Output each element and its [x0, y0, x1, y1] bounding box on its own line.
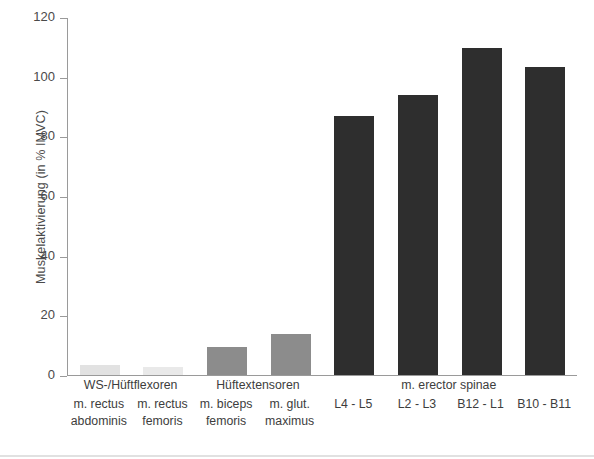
x-axis-label-line1: B10 - B11: [517, 397, 571, 411]
bar: [462, 48, 502, 375]
bar: [207, 347, 247, 375]
y-tick-label: 100: [33, 69, 55, 84]
y-tick-label: 20: [41, 307, 55, 322]
plot-area: 120100806040200: [67, 18, 577, 376]
bar: [398, 95, 438, 375]
y-tick: 60: [60, 197, 67, 198]
x-axis-line: [67, 375, 577, 376]
bar: [334, 116, 374, 375]
bar-chart-figure: Muskelaktivierung (in % IMVC) 1201008060…: [0, 0, 594, 459]
y-tick: 40: [60, 257, 67, 258]
bar: [525, 67, 565, 375]
y-tick-label: 0: [48, 367, 55, 382]
x-axis-label-line1: L2 - L3: [398, 397, 436, 411]
x-axis-group-label: m. erector spinae: [322, 378, 577, 392]
x-axis-label-line1: L4 - L5: [334, 397, 372, 411]
x-axis-label: B10 - B11: [506, 396, 582, 413]
bar: [80, 365, 120, 375]
bar-series: [68, 18, 577, 375]
y-tick: 0: [60, 376, 67, 377]
y-tick-label: 40: [41, 248, 55, 263]
x-axis-label-line2: maximus: [252, 413, 328, 430]
x-axis-group-label: Hüftextensoren: [194, 378, 321, 392]
bar: [143, 367, 183, 375]
y-tick-label: 60: [41, 188, 55, 203]
bar: [271, 334, 311, 375]
x-axis-label-line1: B12 - L1: [457, 397, 504, 411]
x-axis-label-line1: m. glut.: [270, 397, 310, 411]
x-axis-label-line1: m. biceps: [200, 397, 253, 411]
y-tick: 80: [60, 137, 67, 138]
x-axis-label-line1: m. rectus: [137, 397, 188, 411]
x-axis-group-label: WS-/Hüftflexoren: [67, 378, 194, 392]
y-tick-label: 80: [41, 128, 55, 143]
page-bottom-rule: [0, 455, 594, 457]
y-tick: 120: [60, 18, 67, 19]
y-tick-label: 120: [33, 9, 55, 24]
x-axis-label-line1: m. rectus: [74, 397, 125, 411]
x-axis-group-labels: WS-/HüftflexorenHüftextensorenm. erector…: [67, 378, 579, 396]
y-tick: 20: [60, 316, 67, 317]
y-tick: 100: [60, 78, 67, 79]
x-axis-category-labels: m. rectusabdominism. rectusfemorism. bic…: [67, 396, 579, 442]
